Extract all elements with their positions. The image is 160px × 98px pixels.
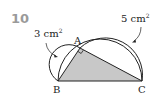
area-large-exp: 2 [146, 12, 150, 19]
leader-small-arrow [54, 55, 58, 58]
area-small-value: 3 cm [34, 28, 59, 39]
area-small-exp: 2 [59, 27, 63, 34]
vertex-a-label: A [74, 36, 81, 46]
vertex-c-label: C [138, 85, 146, 95]
problem-number: 10 [11, 12, 29, 25]
area-large-value: 5 cm [121, 13, 146, 24]
leader-large [134, 27, 141, 41]
leader-large-arrow [132, 40, 136, 43]
vertex-b-label: B [53, 85, 60, 95]
leader-small [46, 43, 56, 56]
area-small-label: 3 cm2 [34, 28, 62, 39]
geometry-figure: 10 3 cm2 5 cm2 A B C [0, 0, 160, 98]
triangle-abc [58, 48, 142, 81]
area-large-label: 5 cm2 [121, 13, 149, 24]
